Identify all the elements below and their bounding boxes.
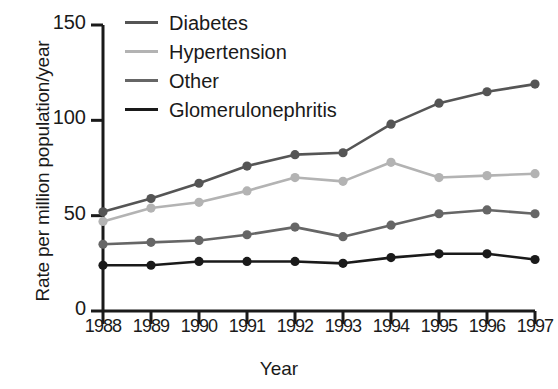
series-hypertension (98, 158, 539, 226)
data-point-other-1992 (290, 223, 299, 232)
data-point-diabetes-1993 (338, 148, 347, 157)
data-point-other-1988 (98, 240, 107, 249)
data-point-glomerulonephritis-1993 (338, 259, 347, 268)
data-point-diabetes-1989 (146, 194, 155, 203)
chart-container: Rate per million population/year 1501005… (0, 0, 558, 389)
data-point-glomerulonephritis-1996 (482, 249, 491, 258)
data-point-other-1997 (530, 209, 539, 218)
data-point-diabetes-1996 (482, 87, 491, 96)
legend-swatch-other (125, 79, 158, 82)
data-point-diabetes-1995 (434, 99, 443, 108)
data-point-diabetes-1991 (242, 161, 251, 170)
y-tick-label-100: 100 (38, 106, 86, 129)
data-point-glomerulonephritis-1992 (290, 257, 299, 266)
series-line-glomerulonephritis (103, 254, 535, 265)
data-point-other-1994 (386, 221, 395, 230)
data-point-diabetes-1994 (386, 120, 395, 129)
data-point-diabetes-1990 (194, 179, 203, 188)
data-point-glomerulonephritis-1997 (530, 255, 539, 264)
data-point-glomerulonephritis-1994 (386, 253, 395, 262)
data-point-hypertension-1992 (290, 173, 299, 182)
data-point-hypertension-1997 (530, 169, 539, 178)
series-line-other (103, 210, 535, 244)
x-axis-title: Year (0, 358, 558, 380)
data-point-glomerulonephritis-1991 (242, 257, 251, 266)
legend-item-hypertension[interactable]: Hypertension (125, 37, 337, 66)
legend-label-glomerulonephritis: Glomerulonephritis (169, 100, 337, 120)
data-point-diabetes-1992 (290, 150, 299, 159)
data-point-hypertension-1994 (386, 158, 395, 167)
chart-legend: DiabetesHypertensionOtherGlomerulonephri… (125, 8, 337, 124)
legend-item-other[interactable]: Other (125, 66, 337, 95)
data-point-hypertension-1993 (338, 177, 347, 186)
data-point-glomerulonephritis-1990 (194, 257, 203, 266)
data-point-glomerulonephritis-1988 (98, 261, 107, 270)
y-tick-label-50: 50 (38, 202, 86, 225)
data-point-diabetes-1988 (98, 207, 107, 216)
x-tick-label-1997: 1997 (507, 316, 558, 337)
data-point-hypertension-1989 (146, 203, 155, 212)
y-tick-label-150: 150 (38, 11, 86, 34)
legend-label-other: Other (169, 71, 219, 91)
data-point-diabetes-1997 (530, 80, 539, 89)
data-point-other-1993 (338, 232, 347, 241)
series-glomerulonephritis (98, 249, 539, 270)
legend-swatch-hypertension (125, 50, 158, 53)
legend-swatch-glomerulonephritis (125, 108, 158, 111)
data-point-other-1991 (242, 230, 251, 239)
data-point-hypertension-1990 (194, 198, 203, 207)
legend-swatch-diabetes (125, 21, 158, 24)
legend-label-hypertension: Hypertension (169, 42, 287, 62)
data-point-other-1995 (434, 209, 443, 218)
data-point-glomerulonephritis-1995 (434, 249, 443, 258)
data-point-other-1996 (482, 205, 491, 214)
data-point-hypertension-1991 (242, 186, 251, 195)
data-point-hypertension-1988 (98, 217, 107, 226)
legend-item-diabetes[interactable]: Diabetes (125, 8, 337, 37)
data-point-hypertension-1995 (434, 173, 443, 182)
data-point-other-1989 (146, 238, 155, 247)
y-axis-title: Rate per million population/year (32, 21, 54, 321)
data-point-other-1990 (194, 236, 203, 245)
data-point-hypertension-1996 (482, 171, 491, 180)
data-point-glomerulonephritis-1989 (146, 261, 155, 270)
series-other (98, 205, 539, 249)
legend-label-diabetes: Diabetes (169, 13, 248, 33)
legend-item-glomerulonephritis[interactable]: Glomerulonephritis (125, 95, 337, 124)
